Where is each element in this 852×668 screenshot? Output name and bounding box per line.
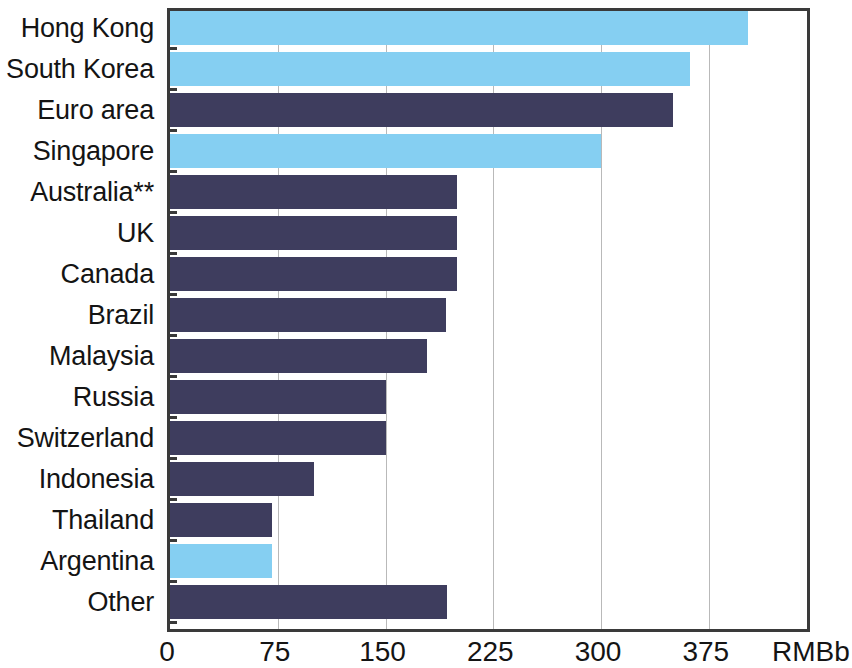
category-label: Argentina (0, 541, 160, 582)
bar-row (170, 421, 807, 462)
axis-tick (170, 252, 177, 255)
bar (170, 216, 457, 250)
plot-area (167, 8, 810, 632)
value-tick-label: 225 (467, 636, 514, 668)
bar-row (170, 380, 807, 421)
bar-row (170, 216, 807, 257)
category-label: Russia (0, 377, 160, 418)
bar (170, 257, 457, 291)
axis-tick (170, 88, 177, 91)
bar (170, 421, 386, 455)
category-label: Indonesia (0, 459, 160, 500)
bar (170, 503, 272, 537)
category-label: Australia** (0, 172, 160, 213)
category-label: Switzerland (0, 418, 160, 459)
bar (170, 339, 427, 373)
bar-series (170, 11, 807, 629)
bar-row (170, 503, 807, 544)
bar (170, 585, 447, 619)
axis-tick (170, 334, 177, 337)
axis-tick (170, 47, 177, 50)
category-label: UK (0, 213, 160, 254)
bar (170, 544, 272, 578)
axis-tick (170, 621, 177, 624)
value-axis-labels: 075150225300375RMBb (0, 636, 852, 668)
value-tick-label: 75 (259, 636, 290, 668)
category-label: Canada (0, 254, 160, 295)
bar (170, 134, 601, 168)
axis-tick (170, 211, 177, 214)
category-label: Thailand (0, 500, 160, 541)
bar-row (170, 175, 807, 216)
bar-row (170, 462, 807, 503)
value-tick-label: 300 (575, 636, 622, 668)
bar-row (170, 93, 807, 134)
bar-row (170, 544, 807, 585)
bar (170, 462, 314, 496)
axis-tick (170, 457, 177, 460)
axis-tick (170, 129, 177, 132)
axis-tick (170, 375, 177, 378)
category-label: South Korea (0, 49, 160, 90)
category-label: Brazil (0, 295, 160, 336)
category-label: Euro area (0, 90, 160, 131)
bar-row (170, 585, 807, 626)
bar-row (170, 257, 807, 298)
bar-row (170, 134, 807, 175)
axis-tick (170, 498, 177, 501)
bar-row (170, 298, 807, 339)
bar-row (170, 52, 807, 93)
bar (170, 298, 446, 332)
axis-tick (170, 580, 177, 583)
bar-row (170, 339, 807, 380)
axis-tick (170, 416, 177, 419)
bar (170, 380, 386, 414)
value-tick-label: 0 (159, 636, 175, 668)
bar (170, 175, 457, 209)
value-tick-label: 150 (359, 636, 406, 668)
bar-row (170, 11, 807, 52)
value-tick-label: 375 (682, 636, 729, 668)
bar-chart: Hong KongSouth KoreaEuro areaSingaporeAu… (0, 0, 852, 668)
category-label: Singapore (0, 131, 160, 172)
axis-tick (170, 293, 177, 296)
category-label: Other (0, 582, 160, 623)
category-axis-labels: Hong KongSouth KoreaEuro areaSingaporeAu… (0, 8, 160, 623)
bar (170, 93, 673, 127)
bar (170, 52, 690, 86)
category-label: Hong Kong (0, 8, 160, 49)
value-axis-unit-label: RMBb (772, 636, 850, 668)
axis-tick (170, 170, 177, 173)
category-label: Malaysia (0, 336, 160, 377)
axis-tick (170, 539, 177, 542)
bar (170, 11, 748, 45)
